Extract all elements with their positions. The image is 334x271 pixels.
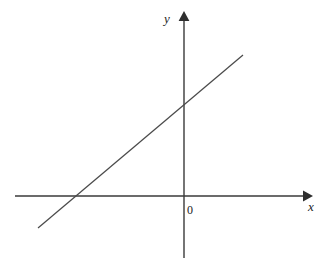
y-axis-label: y (162, 11, 170, 26)
y-axis-arrowhead-icon (179, 11, 190, 21)
coordinate-plane-figure: y x 0 (0, 0, 334, 271)
graph-canvas: y x 0 (0, 0, 334, 271)
x-axis-label: x (307, 199, 314, 214)
origin-label: 0 (187, 203, 193, 217)
plotted-line (38, 55, 243, 228)
